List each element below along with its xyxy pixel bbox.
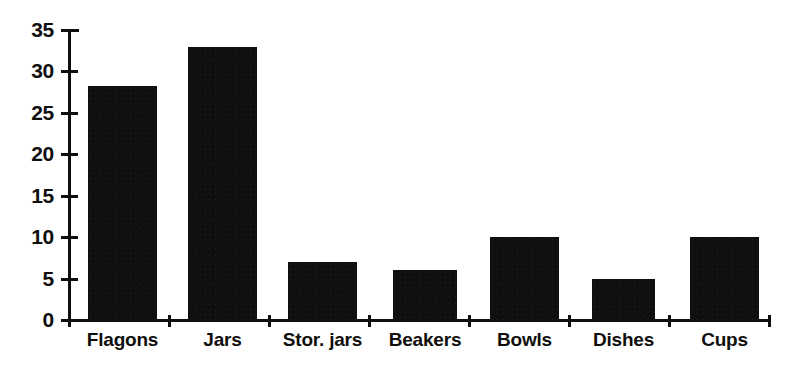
y-tick-label: 20 (10, 143, 54, 164)
bar-jars (188, 47, 257, 320)
x-tick-mark (368, 315, 371, 327)
y-tick-label: 15 (10, 185, 54, 206)
y-tick-label: 0 (10, 309, 54, 330)
y-tick-mark (61, 278, 78, 281)
bar-stor-jars (288, 262, 357, 320)
y-tick-mark (61, 70, 78, 73)
y-tick-mark (61, 112, 78, 115)
x-tick-mark (668, 315, 671, 327)
bar-dishes (592, 279, 655, 320)
x-label-cups: Cups (665, 330, 785, 351)
y-tick-label: 5 (10, 268, 54, 289)
bar-beakers (393, 270, 457, 320)
y-tick-label: 25 (10, 102, 54, 123)
x-tick-mark (68, 315, 71, 327)
bar-bowls (490, 237, 559, 320)
y-tick-mark (61, 236, 78, 239)
bar-flagons (88, 86, 157, 320)
x-tick-mark (568, 315, 571, 327)
y-tick-mark (61, 195, 78, 198)
y-tick-mark (61, 29, 79, 32)
x-tick-mark (168, 315, 171, 327)
y-tick-label: 30 (10, 60, 54, 81)
y-tick-mark (61, 153, 78, 156)
plot-area: 35302520151050 FlagonsJarsStor. jarsBeak… (0, 0, 795, 376)
x-tick-mark (768, 315, 771, 327)
x-tick-mark (268, 315, 271, 327)
chart-figure: 35302520151050 FlagonsJarsStor. jarsBeak… (0, 0, 795, 376)
y-tick-label: 10 (10, 226, 54, 247)
x-tick-mark (468, 315, 471, 327)
y-tick-label: 35 (10, 19, 54, 40)
bar-cups (690, 237, 759, 320)
